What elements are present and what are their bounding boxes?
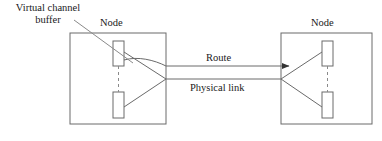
route-curve-left: [124, 58, 166, 66]
fan-line-left-bottom: [124, 79, 166, 107]
node-right-label: Node: [311, 17, 334, 29]
fan-line-left-top: [124, 52, 166, 79]
physical-link-label: Physical link: [190, 82, 245, 94]
diagram-canvas: Virtual channel buffer Node Node Route P…: [0, 0, 382, 141]
buffer-top-left: [113, 41, 124, 66]
node-right-box: [281, 33, 372, 124]
buffer-bottom-right: [322, 92, 333, 118]
virtual-channel-buffer-label: Virtual channel buffer: [6, 2, 90, 26]
route-label: Route: [206, 52, 231, 64]
buffer-top-right: [322, 41, 333, 66]
buffer-bottom-left: [113, 92, 124, 118]
node-left-label: Node: [100, 17, 123, 29]
fan-line-right-bottom: [281, 79, 322, 107]
